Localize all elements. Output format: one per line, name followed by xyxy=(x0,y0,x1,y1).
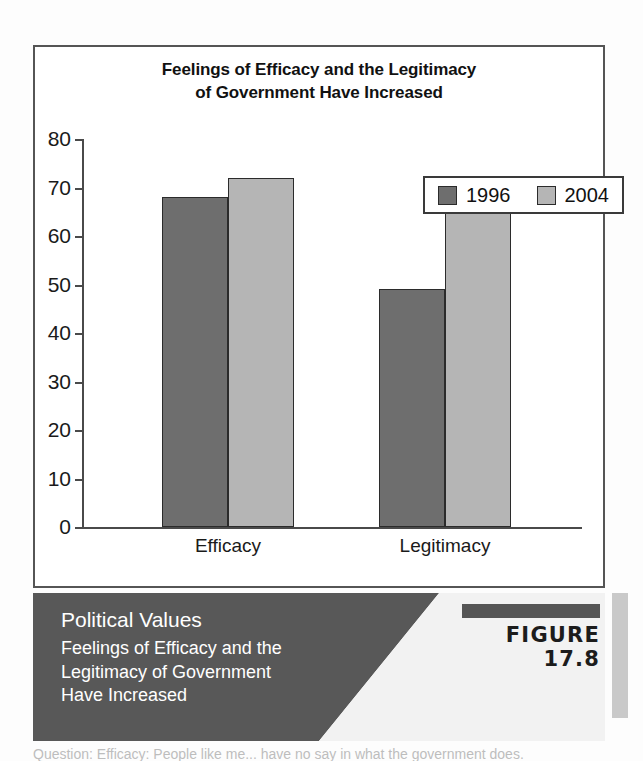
figure-number-label: FIGURE 17.8 xyxy=(456,623,600,671)
y-tick-label: 20 xyxy=(48,419,71,440)
bar-efficacy-1996 xyxy=(162,197,228,527)
caption-subtitle: Feelings of Efficacy and the Legitimacy … xyxy=(61,637,361,707)
legend-swatch-2004 xyxy=(537,186,556,205)
y-tick-mark xyxy=(75,527,82,529)
page-edge-strip xyxy=(612,593,628,718)
legend-item-2004: 2004 xyxy=(537,185,610,205)
y-tick-mark xyxy=(75,382,82,384)
y-tick-mark xyxy=(75,479,82,481)
chart-title: Feelings of Efficacy and the Legitimacy … xyxy=(35,59,603,105)
caption-text-block: Political Values Feelings of Efficacy an… xyxy=(61,607,361,707)
figure-caption-band: Political Values Feelings of Efficacy an… xyxy=(33,593,605,741)
legend-swatch-1996 xyxy=(438,186,457,205)
legend-item-1996: 1996 xyxy=(438,185,511,205)
category-label-legitimacy: Legitimacy xyxy=(400,535,491,557)
y-tick-mark xyxy=(75,188,82,190)
y-tick-label: 10 xyxy=(48,468,71,489)
chart-figure-frame: Feelings of Efficacy and the Legitimacy … xyxy=(33,45,605,588)
y-tick-label: 30 xyxy=(48,371,71,392)
y-tick-label: 80 xyxy=(48,128,71,149)
source-note-text: Question: Efficacy: People like me... ha… xyxy=(33,746,608,761)
y-tick-mark xyxy=(75,139,82,141)
y-tick-label: 60 xyxy=(48,225,71,246)
figure-rule-bar xyxy=(462,604,600,618)
y-tick-label: 0 xyxy=(59,516,71,537)
y-tick-mark xyxy=(75,285,82,287)
legend-label-1996: 1996 xyxy=(466,185,511,205)
caption-subtitle-line-3: Have Increased xyxy=(61,684,361,707)
caption-heading: Political Values xyxy=(61,607,361,633)
bar-legitimacy-1996 xyxy=(379,289,445,527)
bar-efficacy-2004 xyxy=(228,178,294,527)
x-axis-line xyxy=(82,527,582,529)
caption-subtitle-line-2: Legitimacy of Government xyxy=(61,661,361,684)
page-background: Feelings of Efficacy and the Legitimacy … xyxy=(0,0,643,761)
category-label-efficacy: Efficacy xyxy=(195,535,261,557)
bar-legitimacy-2004 xyxy=(445,197,511,527)
figure-number-block: FIGURE 17.8 xyxy=(456,604,600,671)
y-tick-label: 40 xyxy=(48,322,71,343)
chart-title-line-1: Feelings of Efficacy and the Legitimacy xyxy=(35,59,603,82)
chart-legend: 19962004 xyxy=(423,176,624,214)
chart-title-line-2: of Government Have Increased xyxy=(35,82,603,105)
y-tick-mark xyxy=(75,333,82,335)
y-tick-mark xyxy=(75,236,82,238)
y-tick-mark xyxy=(75,430,82,432)
y-tick-label: 70 xyxy=(48,177,71,198)
y-axis-line xyxy=(82,139,84,528)
y-tick-label: 50 xyxy=(48,274,71,295)
caption-subtitle-line-1: Feelings of Efficacy and the xyxy=(61,637,361,660)
legend-label-2004: 2004 xyxy=(565,185,610,205)
